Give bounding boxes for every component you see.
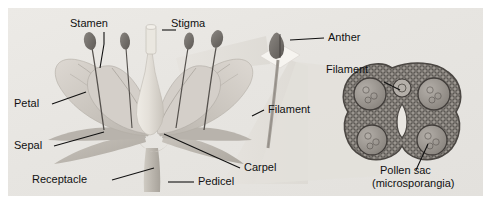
label-stigma: Stigma <box>171 17 205 30</box>
label-pedicel: Pedicel <box>198 175 234 188</box>
anther-cross-section <box>343 63 460 160</box>
label-receptacle: Receptacle <box>32 173 87 186</box>
leader-anther <box>290 38 324 40</box>
label-pollen-sac-line2: (microsporangia) <box>372 177 455 190</box>
label-filament-stem: Filament <box>268 103 310 116</box>
label-petal: Petal <box>14 97 39 110</box>
label-pollen-sac-line1: Pollen sac <box>380 164 431 177</box>
label-stamen: Stamen <box>70 17 108 30</box>
label-sepal: Sepal <box>14 139 42 152</box>
label-carpel: Carpel <box>244 161 276 174</box>
flower-anatomy-figure: Stamen Stigma Petal Sepal Receptacle Ped… <box>0 0 491 207</box>
label-filament-section: Filament <box>326 63 368 76</box>
diagram-panel: Stamen Stigma Petal Sepal Receptacle Ped… <box>8 8 483 196</box>
leader-stamen <box>100 32 104 68</box>
label-anther: Anther <box>328 31 360 44</box>
